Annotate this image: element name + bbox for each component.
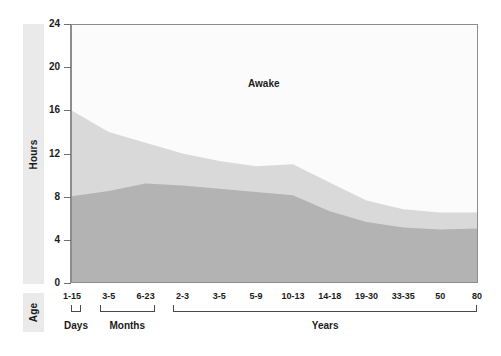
- x-tick-label: 19-30: [355, 291, 378, 301]
- x-group-bracket: [173, 305, 477, 312]
- x-tick-label: 6-23: [137, 291, 155, 301]
- x-tick-label: 14-18: [318, 291, 341, 301]
- y-tick-mark: [64, 154, 71, 155]
- x-tick-label: 3-5: [102, 291, 115, 301]
- non-rem-sleep-area: [72, 184, 477, 283]
- x-tick-label: 1-15: [63, 291, 81, 301]
- y-tick-label: 8: [34, 192, 60, 202]
- x-group-bracket: [71, 305, 81, 312]
- x-tick-label: 3-5: [213, 291, 226, 301]
- x-axis-title: Age: [28, 303, 39, 323]
- y-tick-mark: [64, 110, 71, 111]
- awake-annotation: Awake: [248, 78, 280, 89]
- y-tick-label: 16: [34, 105, 60, 115]
- plot-svg: [72, 25, 477, 282]
- x-group-label: Days: [64, 320, 88, 331]
- y-tick-label: 24: [34, 19, 60, 29]
- x-tick-label: 5-9: [250, 291, 263, 301]
- x-axis-title-panel: Age: [23, 293, 44, 332]
- y-tick-mark: [64, 240, 71, 241]
- x-tick-label: 10-13: [281, 291, 304, 301]
- y-tick-label: 20: [34, 62, 60, 72]
- sleep-hours-area-chart: Hours Age Awake 24201612840 1-153-56-232…: [0, 0, 501, 356]
- y-tick-label: 12: [34, 149, 60, 159]
- y-tick-label: 4: [34, 235, 60, 245]
- x-tick-label: 2-3: [176, 291, 189, 301]
- y-tick-mark: [64, 283, 71, 284]
- x-tick-label: 80: [472, 291, 482, 301]
- x-group-label: Months: [109, 320, 145, 331]
- plot-area: [71, 24, 478, 283]
- y-tick-label: 0: [34, 278, 60, 288]
- x-group-bracket: [100, 305, 155, 312]
- x-group-label: Years: [312, 320, 339, 331]
- x-tick-label: 50: [435, 291, 445, 301]
- y-tick-mark: [64, 24, 71, 25]
- y-tick-mark: [64, 197, 71, 198]
- y-tick-mark: [64, 67, 71, 68]
- x-tick-label: 33-35: [392, 291, 415, 301]
